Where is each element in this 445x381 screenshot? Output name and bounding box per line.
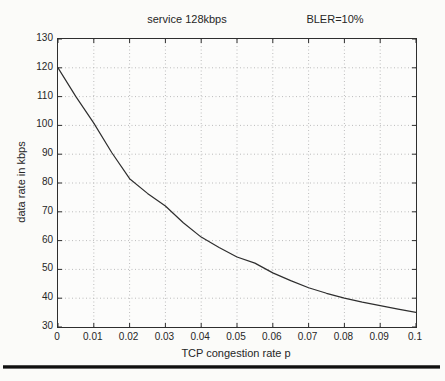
x-tick-label: 0.04 <box>180 331 220 342</box>
y-tick-label: 30 <box>19 320 53 331</box>
x-tick-label: 0.08 <box>323 331 363 342</box>
plot-area <box>57 38 417 328</box>
chart-title-service: service 128kbps <box>57 13 317 25</box>
chart-title-bler: BLER=10% <box>295 13 375 25</box>
figure-page: service 128kbps BLER=10% 00.010.020.030.… <box>0 0 445 381</box>
y-tick-label: 110 <box>19 90 53 101</box>
x-tick-label: 0.1 <box>395 331 435 342</box>
x-tick-label: 0.01 <box>73 331 113 342</box>
y-tick-label: 40 <box>19 291 53 302</box>
line-chart <box>58 39 416 327</box>
y-tick-label: 120 <box>19 61 53 72</box>
x-tick-label: 0.03 <box>144 331 184 342</box>
x-tick-label: 0.06 <box>252 331 292 342</box>
x-tick-label: 0.07 <box>288 331 328 342</box>
x-tick-label: 0.05 <box>216 331 256 342</box>
y-axis-label: data rate in kbps <box>15 122 29 242</box>
x-tick-label: 0.09 <box>359 331 399 342</box>
x-tick-label: 0.02 <box>109 331 149 342</box>
x-tick-label: 0 <box>37 331 77 342</box>
y-tick-label: 130 <box>19 32 53 43</box>
y-tick-label: 50 <box>19 262 53 273</box>
page-divider-rule <box>3 365 440 369</box>
x-axis-label: TCP congestion rate p <box>57 347 415 359</box>
